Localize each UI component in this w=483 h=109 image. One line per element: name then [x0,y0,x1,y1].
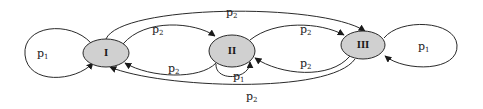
node-label-III: III [357,40,370,50]
edge-label-II-I: p2 [168,62,180,76]
node-III: III [341,31,385,59]
edge-label-I-I: p1 [37,47,49,61]
node-label-I: I [104,48,108,58]
node-II: II [209,35,255,67]
edge-label-II-II: p1 [233,70,245,84]
edge-II-III [250,25,344,40]
edge-label-I-III: p2 [226,6,238,20]
edge-label-III-I: p2 [246,90,258,104]
edge-label-III-III: p1 [418,40,430,54]
edge-label-III-II: p2 [300,57,312,71]
state-diagram: p1 p2 p2 p2 p2 p1 p2 p2 p1 I II III [0,0,483,109]
node-I: I [83,39,129,67]
node-label-II: II [228,46,236,56]
edge-I-II [123,25,215,44]
